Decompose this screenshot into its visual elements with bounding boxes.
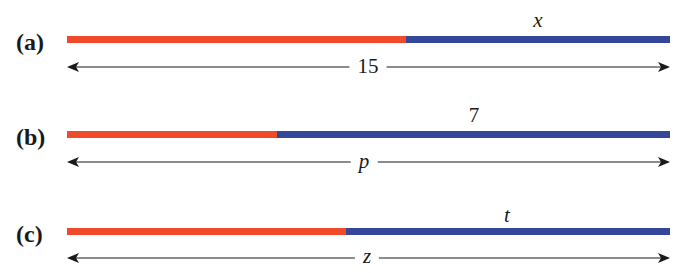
diagram-label: (a)	[16, 30, 44, 54]
total-label: 15	[350, 56, 387, 77]
segment-bar	[67, 36, 670, 43]
total-label: p	[351, 151, 378, 172]
segment-label: t	[504, 205, 510, 226]
segment-bar	[67, 131, 670, 138]
segment-label: 7	[469, 105, 480, 126]
blue-segment	[406, 36, 670, 43]
blue-segment	[346, 228, 670, 235]
diagram-c: (c) t z	[0, 192, 686, 252]
red-segment	[67, 131, 277, 138]
segment-label: x	[533, 10, 542, 31]
blue-segment	[277, 131, 670, 138]
diagram-b: (b) 7 p	[0, 95, 686, 155]
segment-bar	[67, 228, 670, 235]
diagram-label: (c)	[16, 222, 43, 246]
red-segment	[67, 228, 346, 235]
diagram-a: (a) x 15	[0, 0, 686, 60]
diagram-label: (b)	[16, 125, 45, 149]
red-segment	[67, 36, 406, 43]
total-label: z	[355, 246, 379, 267]
